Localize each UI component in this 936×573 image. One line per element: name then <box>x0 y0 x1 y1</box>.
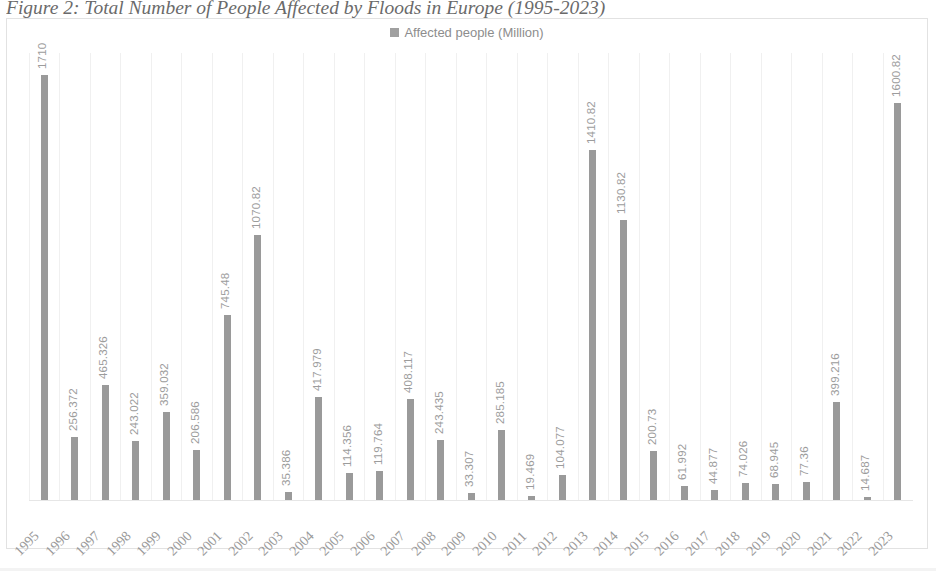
bar-value-label: 114.356 <box>341 424 353 466</box>
bar-slot[interactable]: 1130.82 <box>608 53 638 501</box>
bar[interactable] <box>894 103 901 501</box>
bar-slot[interactable]: 745.48 <box>212 53 242 501</box>
bar-value-label: 1710 <box>36 43 48 69</box>
bar-value-label: 104.077 <box>554 426 566 469</box>
plot-area: 1710256.372465.326243.022359.032206.5867… <box>29 53 913 501</box>
bar-value-label: 417.979 <box>311 348 323 391</box>
legend-label: Affected people (Million) <box>404 25 543 40</box>
bar-slot[interactable]: 74.026 <box>730 53 760 501</box>
bar-value-label: 256.372 <box>67 388 79 431</box>
bar-value-label: 77.36 <box>798 446 810 476</box>
bar-value-label: 1410.82 <box>585 101 597 144</box>
bar[interactable] <box>620 220 627 501</box>
page-edge-artifact <box>0 568 936 571</box>
bar[interactable] <box>650 451 657 501</box>
legend-swatch-icon <box>390 28 399 37</box>
bar[interactable] <box>71 437 78 501</box>
bar-slot[interactable]: 200.73 <box>639 53 669 501</box>
x-axis-tick-label: 1995 <box>12 528 43 559</box>
bar-slot[interactable]: 1710 <box>29 53 59 501</box>
bar[interactable] <box>224 315 231 501</box>
bar[interactable] <box>742 483 749 501</box>
bar[interactable] <box>102 385 109 501</box>
bar-value-label: 1130.82 <box>615 171 627 213</box>
bar-slot[interactable]: 285.185 <box>486 53 516 501</box>
chart-legend: Affected people (Million) <box>7 25 927 40</box>
bar-value-label: 61.992 <box>676 443 688 479</box>
bar-value-label: 68.945 <box>768 441 780 477</box>
bar-value-label: 206.586 <box>189 401 201 444</box>
bar[interactable] <box>437 440 444 501</box>
bar[interactable] <box>315 397 322 501</box>
bar-value-label: 243.022 <box>128 392 140 435</box>
bar-value-label: 19.469 <box>524 454 536 490</box>
bar-slot[interactable]: 14.687 <box>852 53 882 501</box>
bar-value-label: 285.185 <box>494 381 506 424</box>
bar-slot[interactable]: 35.386 <box>273 53 303 501</box>
bar-slot[interactable]: 243.022 <box>120 53 150 501</box>
bar-value-label: 359.032 <box>158 363 170 406</box>
bar-slot[interactable]: 77.36 <box>791 53 821 501</box>
bar[interactable] <box>589 150 596 501</box>
bar-value-label: 200.73 <box>646 409 658 445</box>
bar-value-label: 35.386 <box>280 450 292 486</box>
figure-caption: Figure 2: Total Number of People Affecte… <box>6 0 906 19</box>
bar-slot[interactable]: 1600.82 <box>883 53 913 501</box>
bar-slot[interactable]: 68.945 <box>761 53 791 501</box>
bar-slot[interactable]: 44.877 <box>700 53 730 501</box>
bar-slot[interactable]: 256.372 <box>59 53 89 501</box>
bar-slot[interactable]: 33.307 <box>456 53 486 501</box>
bar-slot[interactable]: 119.764 <box>364 53 394 501</box>
bar-slot[interactable]: 359.032 <box>151 53 181 501</box>
bar-value-label: 1070.82 <box>250 186 262 229</box>
bar[interactable] <box>193 450 200 501</box>
bar-value-label: 119.764 <box>372 423 384 465</box>
bar-value-label: 74.026 <box>737 440 749 476</box>
bar-value-label: 33.307 <box>463 450 475 486</box>
bar[interactable] <box>407 399 414 501</box>
bar[interactable] <box>132 441 139 501</box>
bar-slot[interactable]: 1410.82 <box>578 53 608 501</box>
bar[interactable] <box>498 430 505 501</box>
axis-baseline <box>29 500 913 501</box>
bar-slot[interactable]: 114.356 <box>334 53 364 501</box>
bar-slot[interactable]: 104.077 <box>547 53 577 501</box>
bar[interactable] <box>803 482 810 501</box>
bar-slot[interactable]: 19.469 <box>517 53 547 501</box>
bar-value-label: 399.216 <box>829 353 841 396</box>
bar-value-label: 408.117 <box>402 351 414 393</box>
chart-frame: Affected people (Million) 1710256.372465… <box>6 18 928 549</box>
bar-value-label: 1600.82 <box>890 54 902 97</box>
bar-slot[interactable]: 465.326 <box>90 53 120 501</box>
bar[interactable] <box>254 235 261 502</box>
x-axis-labels: 1995199619971998199920002001200220032004… <box>29 503 913 573</box>
bar[interactable] <box>681 486 688 501</box>
bar-slot[interactable]: 61.992 <box>669 53 699 501</box>
bar-slot[interactable]: 243.435 <box>425 53 455 501</box>
bar[interactable] <box>376 471 383 501</box>
bar-value-label: 243.435 <box>433 391 445 434</box>
bar-slot[interactable]: 408.117 <box>395 53 425 501</box>
bar-slot[interactable]: 206.586 <box>181 53 211 501</box>
bar[interactable] <box>163 412 170 501</box>
bar-value-label: 745.48 <box>219 273 231 309</box>
bar-value-label: 14.687 <box>859 455 871 491</box>
bar-slot[interactable]: 399.216 <box>822 53 852 501</box>
bar[interactable] <box>41 75 48 501</box>
bar-value-label: 44.877 <box>707 447 719 483</box>
bar-series: 1710256.372465.326243.022359.032206.5867… <box>29 53 913 501</box>
bar[interactable] <box>833 402 840 501</box>
bar[interactable] <box>559 475 566 501</box>
bar-value-label: 465.326 <box>97 336 109 379</box>
bar-slot[interactable]: 417.979 <box>303 53 333 501</box>
bar-slot[interactable]: 1070.82 <box>242 53 272 501</box>
x-axis-tick: 2023 <box>883 503 913 573</box>
bar[interactable] <box>346 473 353 501</box>
bar[interactable] <box>772 484 779 501</box>
